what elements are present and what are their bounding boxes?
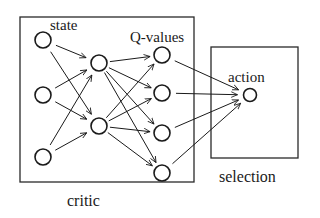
state-input-node: [35, 87, 51, 103]
action-label: action: [228, 69, 265, 85]
q-value-node: [154, 165, 170, 181]
state-label: state: [50, 17, 78, 33]
connection-arrow: [55, 133, 87, 150]
connection-arrow: [109, 68, 151, 88]
q-value-node: [154, 85, 170, 101]
q-value-node: [154, 47, 170, 63]
connection-arrow: [55, 70, 87, 88]
q-value-node: [154, 125, 170, 141]
hidden-node: [91, 55, 107, 71]
critic-label: critic: [67, 192, 100, 209]
selection-label: selection: [219, 168, 276, 185]
connection-arrow: [110, 57, 150, 62]
q-values-label: Q-values: [130, 29, 184, 45]
critic-actor-diagram: state Q-values action critic selection: [0, 0, 320, 218]
connection-arrows: [50, 45, 240, 166]
state-input-node: [35, 32, 51, 48]
connection-arrow: [51, 52, 92, 115]
connection-arrow: [176, 93, 238, 94]
connection-arrow: [50, 75, 92, 145]
connection-arrow: [106, 71, 154, 124]
connection-arrow: [108, 133, 153, 166]
connection-arrow: [172, 103, 240, 163]
selection-box: [211, 47, 298, 158]
connection-arrow: [110, 127, 150, 131]
hidden-node: [91, 118, 107, 134]
connection-arrow: [56, 45, 86, 57]
action-node: [244, 89, 257, 102]
state-input-node: [35, 149, 51, 165]
